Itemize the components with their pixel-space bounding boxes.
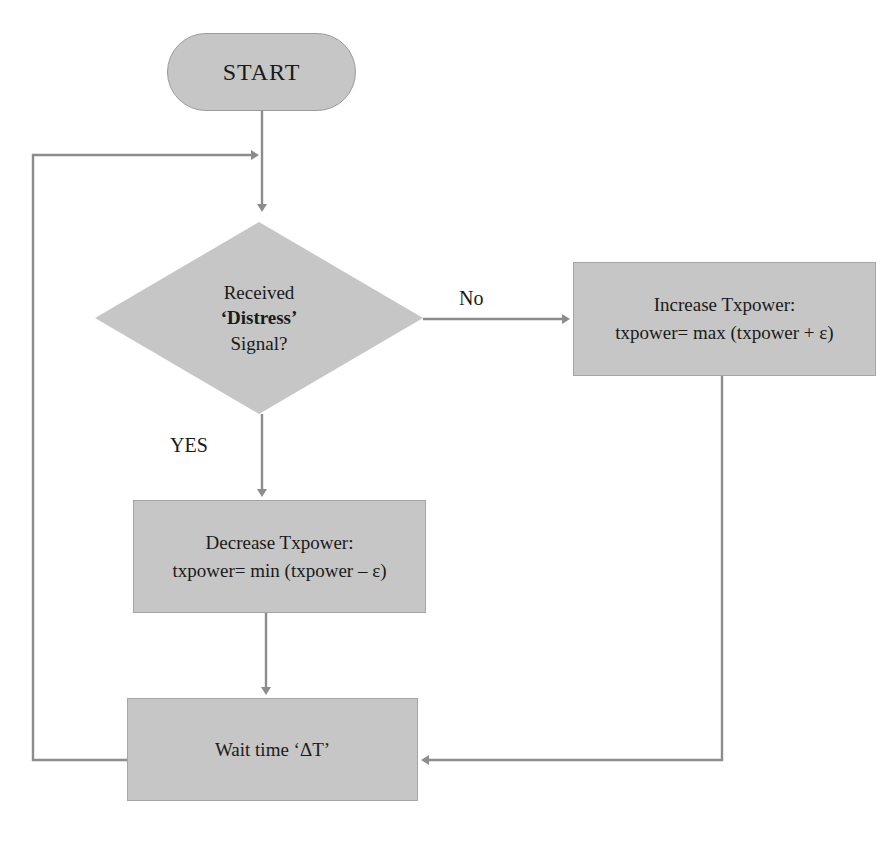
node-wait-line1: Wait time ‘ΔT’ (215, 736, 330, 764)
edge-increase-to-wait (426, 376, 722, 760)
flowchart-canvas: START Received ‘Distress’ Signal? Increa… (0, 0, 896, 845)
node-increase-line2: txpower= max (txpower + ε) (615, 319, 833, 347)
node-decision-text: Received ‘Distress’ Signal? (221, 280, 298, 357)
node-increase-txpower[interactable]: Increase Txpower: txpower= max (txpower … (573, 262, 876, 376)
node-decision-line3: Signal? (221, 331, 298, 357)
node-start-label: START (223, 59, 301, 86)
node-decrease-line2: txpower= min (txpower – ε) (173, 557, 387, 585)
node-decrease-line1: Decrease Txpower: (206, 529, 354, 557)
edge-label-yes: YES (170, 434, 208, 457)
node-start[interactable]: START (167, 33, 356, 111)
node-decision-distress[interactable]: Received ‘Distress’ Signal? (95, 222, 423, 414)
node-decision-line1: Received (221, 280, 298, 306)
node-decrease-txpower[interactable]: Decrease Txpower: txpower= min (txpower … (133, 500, 426, 613)
node-decision-line2: ‘Distress’ (221, 305, 298, 331)
edge-label-no: No (459, 287, 483, 310)
node-wait-time[interactable]: Wait time ‘ΔT’ (127, 698, 418, 801)
node-increase-line1: Increase Txpower: (654, 291, 796, 319)
